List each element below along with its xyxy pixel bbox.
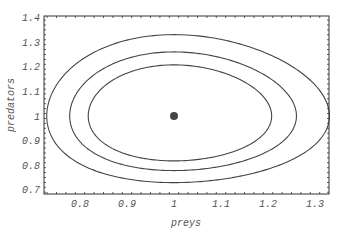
x-axis-label: preys (170, 218, 201, 229)
x-tick-label: 1.2 (259, 199, 277, 210)
x-tick-label: 1 (171, 199, 177, 210)
orbit-curves (47, 35, 330, 183)
x-tick-label: 1.3 (306, 199, 324, 210)
y-tick-label: 1.2 (22, 62, 40, 73)
y-axis-label: predators (6, 78, 17, 133)
y-tick-label: 0.8 (22, 161, 40, 172)
orbit-inner (88, 65, 271, 161)
y-tick-label: 0.9 (22, 136, 40, 147)
y-tick-label: 1.1 (22, 87, 40, 98)
x-tick-label: 0.9 (118, 199, 136, 210)
y-tick-label: 1 (34, 112, 40, 123)
phase-plot: 0.80.911.11.21.3 0.70.80.911.11.21.31.4 … (0, 0, 343, 234)
x-tick-label: 0.8 (71, 199, 89, 210)
y-tick-labels: 0.70.80.911.11.21.31.4 (22, 13, 40, 196)
equilibrium-point (170, 112, 178, 120)
orbit-middle (70, 52, 297, 171)
x-tick-labels: 0.80.911.11.21.3 (71, 199, 324, 210)
y-tick-label: 0.7 (22, 185, 40, 196)
y-tick-label: 1.4 (22, 13, 40, 24)
y-tick-label: 1.3 (22, 38, 40, 49)
x-tick-label: 1.1 (212, 199, 230, 210)
